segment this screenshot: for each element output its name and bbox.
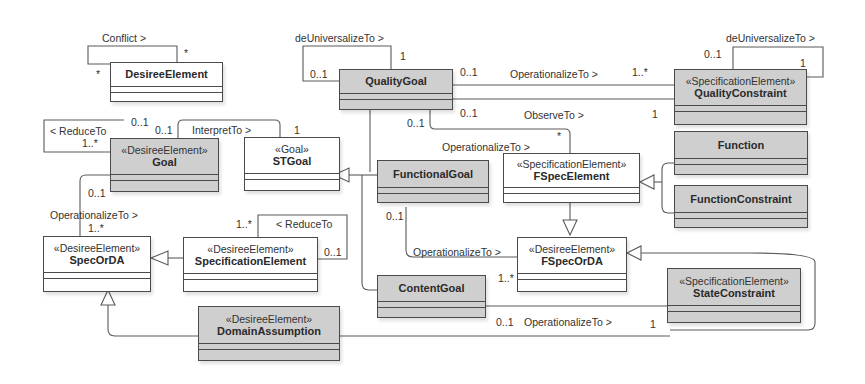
stereotype: «DesireeElement» (529, 243, 615, 255)
stereotype: «SpecificationElement» (517, 158, 627, 170)
function-to-fspec (662, 163, 674, 182)
specorda-generalization-arrow (151, 251, 168, 265)
operations-compartment (675, 219, 807, 225)
stereotype: «DesireeElement» (54, 242, 140, 254)
conflict-target-mult: * (184, 47, 188, 59)
stereotype: «DesireeElement» (207, 243, 293, 255)
qg-operationalize-target-mult: 1..* (632, 66, 648, 78)
goal-operationalize-label: OperationalizeTo > (50, 209, 138, 221)
class-name: DomainAssumption (217, 325, 321, 338)
operations-compartment (518, 280, 626, 286)
class-spec-or-da[interactable]: «DesireeElement» SpecOrDA (43, 236, 151, 292)
qg-observe-label: ObserveTo > (524, 109, 584, 121)
specorda-generalization-arrow-2 (101, 290, 115, 305)
class-name: SpecificationElement (195, 255, 306, 268)
class-name: QualityGoal (365, 75, 427, 88)
class-name: Function (718, 139, 764, 152)
class-specification-element[interactable]: «DesireeElement» SpecificationElement (183, 237, 318, 292)
qc-deuniversalize-source-mult: 0..1 (704, 48, 722, 60)
spec-reduce-source-mult: 0..1 (324, 246, 342, 258)
operations-compartment (111, 93, 222, 99)
class-state-constraint[interactable]: «SpecificationElement» StateConstraint (667, 268, 801, 323)
class-name: ContentGoal (399, 282, 465, 295)
operations-compartment (199, 350, 339, 356)
class-st-goal[interactable]: «Goal» STGoal (244, 137, 340, 191)
operations-compartment (111, 181, 218, 187)
operations-compartment (44, 279, 150, 285)
cg-operationalize-target-mult: 1 (650, 318, 656, 330)
qg-deuniversalize-target-mult: 1 (400, 50, 406, 62)
fspecelement-generalization-arrow (640, 175, 654, 189)
class-name: FSpecElement (534, 170, 610, 183)
fg-operationalize-source-mult: 0..1 (386, 210, 404, 222)
class-desiree-element[interactable]: DesireeElement (110, 62, 223, 102)
class-name: Goal (152, 156, 176, 169)
class-domain-assumption[interactable]: «DesireeElement» DomainAssumption (198, 306, 340, 361)
spec-reduce-label: < ReduceTo (276, 218, 332, 230)
stereotype: «Goal» (275, 143, 309, 155)
class-name: FunctionConstraint (690, 193, 791, 206)
goal-interpret-source-mult: 0..1 (155, 124, 173, 136)
operations-compartment (340, 100, 452, 106)
qg-deuniversalize-source-mult: 0..1 (310, 68, 328, 80)
fspecorda-generalization-arrow-2 (627, 246, 641, 260)
conflict-source-mult: * (96, 68, 100, 80)
goal-reduce-target-mult: 1..* (82, 137, 98, 149)
stereotype: «DesireeElement» (121, 144, 207, 156)
operations-compartment (245, 180, 339, 186)
operations-compartment (378, 308, 485, 314)
class-name: StateConstraint (693, 287, 775, 300)
goal-reduce-source-mult: 0..1 (131, 116, 149, 128)
qg-operationalize-source-mult: 0..1 (460, 66, 478, 78)
class-quality-constraint[interactable]: «SpecificationElement» QualityConstraint (674, 69, 807, 125)
functionconstraint-to-fspec (662, 182, 674, 213)
spec-reduce-target-mult: 1..* (236, 218, 252, 230)
qg-observe-source-mult: 0..1 (460, 107, 478, 119)
class-name: STGoal (273, 155, 312, 168)
da-to-specorda (108, 303, 198, 336)
qg-deuniversalize-label: deUniversalizeTo > (295, 32, 384, 44)
cg-operationalize-source-mult: 0..1 (496, 316, 514, 328)
stereotype: «SpecificationElement» (686, 75, 796, 87)
fspecorda-generalization-arrow (563, 220, 577, 235)
operations-compartment (378, 194, 488, 200)
qg-operationalize-label: OperationalizeTo > (510, 68, 598, 80)
operations-compartment (675, 165, 807, 171)
class-functional-goal[interactable]: FunctionalGoal (377, 160, 489, 203)
goal-operationalize-target-mult: 1..* (88, 222, 104, 234)
class-name: FSpecOrDA (541, 255, 603, 268)
class-function-constraint[interactable]: FunctionConstraint (674, 185, 808, 228)
qc-deuniversalize-label: deUniversalizeTo > (726, 32, 815, 44)
class-content-goal[interactable]: ContentGoal (377, 275, 486, 318)
cg-operationalize-label: OperationalizeTo > (524, 316, 612, 328)
fg-operationalize-label: OperationalizeTo > (413, 246, 501, 258)
class-name: QualityConstraint (694, 87, 786, 100)
conflict-label: Conflict > (102, 32, 146, 44)
operations-compartment (675, 112, 806, 118)
qg-operationalize-fspec-label: OperationalizeTo > (442, 141, 530, 153)
qg-operationalize-fspec-target-mult: * (557, 130, 561, 142)
class-name: SpecOrDA (69, 254, 124, 267)
class-name: DesireeElement (125, 68, 208, 81)
stereotype: «SpecificationElement» (679, 275, 789, 287)
fg-operationalize-target-mult: 1..* (498, 272, 514, 284)
operations-compartment (504, 194, 639, 200)
goal-interpret-target-mult: 1 (294, 124, 300, 136)
operations-compartment (184, 280, 317, 286)
goal-reduce-label: < ReduceTo (50, 125, 106, 137)
class-fspec-or-da[interactable]: «DesireeElement» FSpecOrDA (517, 237, 627, 292)
goal-interpret-label: InterpretTo > (192, 124, 251, 136)
stereotype: «DesireeElement» (226, 313, 312, 325)
class-function[interactable]: Function (674, 131, 808, 175)
class-fspec-element[interactable]: «SpecificationElement» FSpecElement (503, 153, 640, 203)
operations-compartment (668, 312, 800, 318)
cg-to-stgoal (362, 175, 377, 290)
class-name: FunctionalGoal (393, 168, 473, 181)
qg-operationalize-fspec-source-mult: 0..1 (407, 117, 425, 129)
class-quality-goal[interactable]: QualityGoal (339, 69, 453, 110)
qg-observe-target-mult: 1 (652, 108, 658, 120)
class-goal[interactable]: «DesireeElement» Goal (110, 138, 219, 192)
qc-deuniversalize-target-mult: 1 (800, 57, 806, 69)
goal-operationalize-source-mult: 0..1 (88, 187, 106, 199)
